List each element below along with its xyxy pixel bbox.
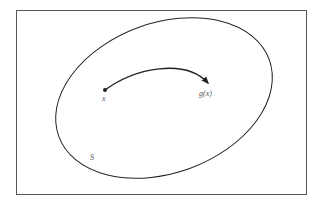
- mapping-diagram: x g(x) S: [0, 0, 324, 201]
- frame-border: [17, 11, 307, 195]
- set-s-ellipse: [33, 0, 295, 201]
- mapping-arrow: [105, 68, 208, 90]
- set-s-label: S: [90, 153, 94, 162]
- image-gx-label: g(x): [199, 89, 212, 98]
- point-x-label: x: [101, 94, 106, 103]
